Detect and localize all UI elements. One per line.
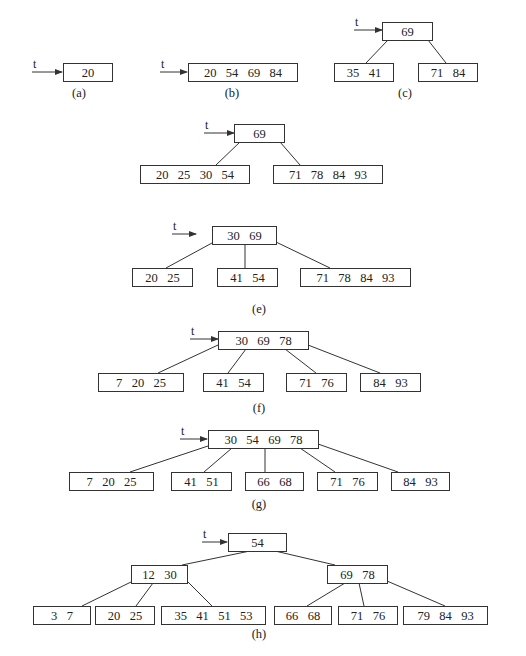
tree-edge	[136, 583, 153, 606]
btree-diagram: t20(a)t20 54 69 84(b)t6935 4171 84(c)t69…	[0, 0, 526, 656]
node-keys: 20 25 30 54	[156, 168, 235, 182]
tree-edge	[307, 583, 345, 606]
tree-edge	[166, 243, 212, 268]
panel-caption: (a)	[72, 86, 86, 100]
root-node: 20	[64, 64, 113, 82]
node-keys: 79 84 93	[417, 609, 473, 623]
node-keys: 20	[82, 66, 95, 80]
root-pointer-label: t	[33, 57, 37, 71]
node-keys: 20 25	[108, 609, 142, 623]
panels-layer: t20(a)t20 54 69 84(b)t6935 4171 84(c)t69…	[32, 15, 488, 641]
node-keys: 71 76	[351, 609, 385, 623]
tree-edge	[187, 581, 212, 606]
tree-node: 69 78	[328, 566, 388, 584]
panel-caption: (g)	[252, 497, 267, 511]
panel-a: t20(a)	[32, 57, 113, 100]
tree-node: 71 78 84 93	[274, 166, 383, 184]
node-keys: 3 7	[51, 609, 73, 623]
tree-node: 7 20 25	[99, 374, 184, 392]
tree-edge	[204, 448, 232, 472]
node-keys: 7 20 25	[87, 475, 137, 489]
tree-node: 20 25	[96, 607, 155, 625]
tree-node: 20 25	[133, 269, 193, 287]
node-keys: 41 54	[230, 271, 265, 285]
tree-node: 71 76	[339, 607, 398, 625]
tree-node: 41 54	[218, 269, 278, 287]
node-keys: 35 41	[347, 66, 381, 80]
tree-edge	[366, 40, 388, 63]
node-keys: 7 20 25	[116, 376, 166, 390]
panel-caption: (b)	[225, 86, 240, 100]
node-keys: 69 78	[340, 568, 374, 582]
tree-node: 71 76	[318, 473, 378, 491]
root-pointer-label: t	[173, 219, 177, 233]
panel-g: t30 54 69 787 20 2541 5166 6871 7684 93(…	[70, 424, 450, 511]
tree-node: 20 25 30 54	[141, 166, 250, 184]
node-keys: 41 54	[216, 376, 251, 390]
tree-node: 41 51	[172, 473, 232, 491]
tree-edge	[318, 444, 398, 472]
node-keys: 84 93	[403, 475, 437, 489]
tree-edge	[280, 142, 300, 165]
node-keys: 30 69	[227, 229, 261, 243]
tree-node: 66 68	[275, 607, 332, 625]
tree-edge	[428, 40, 446, 63]
root-pointer-label: t	[205, 118, 209, 132]
tree-edge	[82, 582, 131, 606]
node-keys: 66 68	[257, 475, 291, 489]
root-pointer-label: t	[203, 527, 207, 541]
node-keys: 84 93	[373, 376, 407, 390]
panel-caption: (e)	[252, 302, 266, 316]
node-keys: 69	[253, 127, 266, 141]
panel-caption: (c)	[398, 86, 412, 100]
node-keys: 54	[251, 536, 264, 550]
tree-edge	[275, 551, 335, 565]
node-keys: 41 51	[184, 475, 218, 489]
panel-e: t30 6920 2541 5471 78 84 93(e)	[133, 219, 411, 316]
tree-edge	[308, 345, 380, 373]
node-keys: 71 78 84 93	[316, 271, 394, 285]
node-keys: 20 54 69 84	[204, 66, 283, 80]
node-keys: 30 69 78	[235, 334, 291, 348]
tree-node: 71 78 84 93	[301, 269, 411, 287]
node-keys: 71 76	[299, 376, 333, 390]
root-node: 30 69 78	[219, 332, 309, 350]
tree-node: 84 93	[392, 473, 450, 491]
tree-node: 7 20 25	[70, 473, 154, 491]
root-pointer-label: t	[181, 424, 185, 438]
tree-edge	[158, 345, 218, 373]
panel-d: t6920 25 30 5471 78 84 93(d)	[141, 118, 383, 241]
node-keys: 20 25	[145, 271, 179, 285]
root-node: 69	[383, 23, 433, 41]
panel-h: t5412 3069 783 720 2535 41 51 5366 6871 …	[34, 527, 488, 641]
node-keys: 71 78 84 93	[289, 168, 367, 182]
root-node: 20 54 69 84	[189, 64, 298, 82]
tree-node: 84 93	[361, 374, 421, 392]
root-node: 30 69	[213, 227, 277, 245]
tree-edge	[387, 581, 445, 606]
node-keys: 69	[401, 25, 414, 39]
node-keys: 12 30	[142, 568, 176, 582]
panel-c: t6935 4171 84(c)	[335, 15, 478, 100]
tree-edge	[130, 446, 208, 472]
tree-node: 35 41 51 53	[162, 607, 266, 625]
node-keys: 35 41 51 53	[174, 609, 252, 623]
root-pointer-label: t	[191, 324, 195, 338]
tree-node: 71 76	[287, 374, 347, 392]
tree-node: 35 41	[335, 64, 394, 82]
panel-b: t20 54 69 84(b)	[160, 57, 298, 100]
tree-edge	[276, 242, 330, 268]
tree-node: 41 54	[204, 374, 264, 392]
tree-edge	[216, 142, 240, 165]
root-node: 54	[229, 534, 287, 552]
tree-node: 71 84	[419, 64, 478, 82]
node-keys: 71 84	[431, 66, 466, 80]
node-keys: 30 54 69 78	[224, 433, 302, 447]
tree-edge	[300, 448, 335, 472]
tree-node: 66 68	[246, 473, 304, 491]
tree-edge	[285, 349, 316, 373]
node-keys: 71 76	[330, 475, 364, 489]
panel-caption: (h)	[252, 627, 267, 641]
root-node: 30 54 69 78	[209, 431, 319, 449]
panel-caption: (f)	[253, 401, 266, 415]
